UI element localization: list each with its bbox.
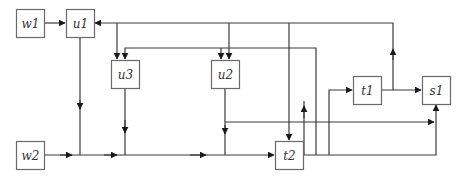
node-u3-label: u3 xyxy=(118,68,134,82)
node-w2: w2 xyxy=(17,142,45,170)
node-s1-label: s1 xyxy=(430,84,444,98)
node-t2: t2 xyxy=(276,142,304,170)
node-u1: u1 xyxy=(67,10,95,38)
node-u2: u2 xyxy=(212,61,240,89)
node-t1: t1 xyxy=(354,77,382,105)
node-w2-label: w2 xyxy=(22,149,40,163)
node-w1-label: w1 xyxy=(22,17,40,31)
node-s1: s1 xyxy=(423,77,451,105)
node-w1: w1 xyxy=(17,10,45,38)
block-diagram: w1 u1 u3 u2 t1 s1 w2 t2 xyxy=(0,0,463,182)
node-u2-label: u2 xyxy=(218,68,233,82)
edge-t2-to-s1 xyxy=(303,105,436,155)
node-t1-label: t1 xyxy=(361,84,373,98)
node-t2-label: t2 xyxy=(283,149,295,163)
node-u1-label: u1 xyxy=(73,17,88,31)
node-u3: u3 xyxy=(112,61,140,89)
